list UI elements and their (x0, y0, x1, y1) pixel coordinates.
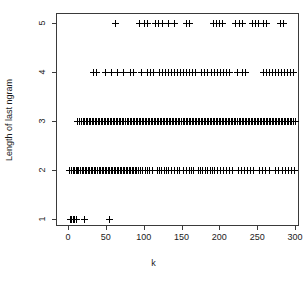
x-axis-tick (295, 226, 296, 230)
y-axis-tick (52, 72, 56, 73)
y-axis-tick (52, 121, 56, 122)
x-axis-title: k (0, 258, 307, 268)
x-axis-tick (182, 226, 183, 230)
y-axis-tick (52, 23, 56, 24)
scatter-plot-figure: Length of last ngram k 12345050100150200… (0, 0, 307, 285)
y-axis-tick-label: 3 (37, 115, 47, 127)
plot-frame (56, 13, 299, 226)
y-axis-title: Length of last ngram (2, 0, 16, 240)
y-axis-tick-label: 5 (37, 17, 47, 29)
x-axis-tick-label: 0 (65, 232, 70, 242)
x-axis-tick (219, 226, 220, 230)
y-axis-tick-label: 2 (37, 164, 47, 176)
x-axis-tick (68, 226, 69, 230)
x-axis-tick-label: 50 (101, 232, 111, 242)
y-axis-tick-label: 4 (37, 66, 47, 78)
x-axis-tick-label: 300 (287, 232, 302, 242)
x-axis-tick-label: 250 (250, 232, 265, 242)
x-axis-tick (106, 226, 107, 230)
y-axis-tick-label: 1 (37, 213, 47, 225)
x-axis-tick (144, 226, 145, 230)
x-axis-tick (257, 226, 258, 230)
y-axis-tick (52, 170, 56, 171)
y-axis-title-label: Length of last ngram (4, 79, 14, 161)
x-axis-tick-label: 200 (212, 232, 227, 242)
x-axis-tick-label: 150 (174, 232, 189, 242)
y-axis-tick (52, 219, 56, 220)
x-axis-tick-label: 100 (136, 232, 151, 242)
